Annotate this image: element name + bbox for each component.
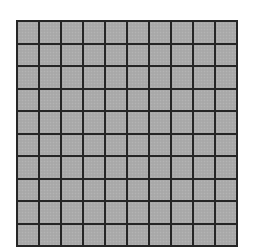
grid-cell [106,45,126,66]
grid-cell [216,135,236,156]
grid-cell [128,22,148,43]
grid-cell [106,202,126,223]
grid-cell [194,112,214,133]
grid-cell [18,112,38,133]
grid-cell [84,90,104,111]
grid-cell [106,90,126,111]
grid-cell [150,22,170,43]
grid-cell [216,90,236,111]
grid-cell [40,45,60,66]
grid-cell [84,112,104,133]
grid-cell [62,180,82,201]
grid-cell [84,135,104,156]
grid-cell [128,45,148,66]
grid-cell [216,67,236,88]
grid-cell [62,202,82,223]
grid-cell [194,67,214,88]
grid-cell [84,22,104,43]
grid-cell [128,90,148,111]
grid-cell [128,202,148,223]
grid-cell [106,22,126,43]
grid-cell [194,180,214,201]
grid-cell [40,225,60,246]
grid-cell [18,90,38,111]
grid-cell [84,45,104,66]
grid-cell [172,112,192,133]
grid-cell [128,157,148,178]
grid-cell [62,112,82,133]
grid-cell [150,157,170,178]
grid-cell [128,180,148,201]
grid-cell [18,180,38,201]
grid-cell [62,90,82,111]
grid-cell [150,112,170,133]
grid-cell [194,22,214,43]
grid-cell [216,202,236,223]
grid-cell [216,112,236,133]
grid-cell [128,112,148,133]
grid-cell [216,180,236,201]
grid-cell [194,90,214,111]
grid-cell [172,45,192,66]
grid-cell [172,67,192,88]
grid-cell [62,135,82,156]
grid-cell [172,90,192,111]
grid-cell [62,22,82,43]
grid-cell [62,225,82,246]
grid-cell [106,112,126,133]
grid-cell [18,157,38,178]
grid-cell [216,225,236,246]
grid-cell [150,180,170,201]
grid-cell [18,225,38,246]
grid-cell [150,202,170,223]
grid-cell [194,157,214,178]
grid-cell [106,67,126,88]
grid-cell [106,157,126,178]
grid-cell [128,67,148,88]
grid-cell [172,225,192,246]
grid-cell [62,45,82,66]
grid-cell [40,180,60,201]
grid-cell [62,67,82,88]
square-grid [16,20,238,247]
grid-cell [194,135,214,156]
grid-cell [18,202,38,223]
grid-cell [40,22,60,43]
grid-cell [128,135,148,156]
grid-cell [84,67,104,88]
grid-cell [18,22,38,43]
grid-cell [18,135,38,156]
grid-cell [150,67,170,88]
grid-cell [106,180,126,201]
grid-cell [150,90,170,111]
grid-cell [62,157,82,178]
grid-cell [18,67,38,88]
grid-cell [150,225,170,246]
grid-cell [172,22,192,43]
grid-cell [84,180,104,201]
grid-cell [194,45,214,66]
grid-cell [216,22,236,43]
grid-cell [106,135,126,156]
grid-cell [172,157,192,178]
grid-cell [150,135,170,156]
grid-cell [172,135,192,156]
grid-cell [216,45,236,66]
grid-cell [172,202,192,223]
grid-cell [216,157,236,178]
grid-cell [106,225,126,246]
grid-cell [194,225,214,246]
figure-canvas [0,0,255,247]
grid-cell [40,202,60,223]
grid-cell [18,45,38,66]
grid-cell [84,157,104,178]
grid-cell [194,202,214,223]
grid-cell [84,225,104,246]
grid-cell [40,157,60,178]
grid-cell [40,135,60,156]
grid-cell [40,67,60,88]
grid-cell [150,45,170,66]
grid-cell [84,202,104,223]
grid-cell [172,180,192,201]
grid-cell [40,90,60,111]
